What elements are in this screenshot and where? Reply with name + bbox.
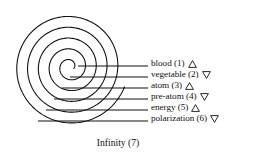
triangle-up-icon xyxy=(188,60,197,68)
triangle-up-icon xyxy=(191,104,200,112)
triangle-down-icon xyxy=(210,115,219,123)
legend-item-pre-atom: pre-atom (4) xyxy=(151,91,256,102)
legend-list: blood (1) vegetable (2) atom (3) pre-ato… xyxy=(151,58,256,124)
legend-label-pre-atom: pre-atom (4) xyxy=(151,91,197,102)
legend-item-blood: blood (1) xyxy=(151,58,256,69)
triangle-up-icon xyxy=(185,82,194,90)
legend-item-vegetable: vegetable (2) xyxy=(151,69,256,80)
spiral-figure: blood (1) vegetable (2) atom (3) pre-ato… xyxy=(0,0,256,157)
legend-item-polarization: polarization (6) xyxy=(151,113,256,124)
legend-item-atom: atom (3) xyxy=(151,80,256,91)
spiral-curve xyxy=(17,16,125,122)
legend-item-energy: energy (5) xyxy=(151,102,256,113)
figure-caption: Infinity (7) xyxy=(0,136,236,149)
spiral-path xyxy=(17,16,125,122)
triangle-down-icon xyxy=(200,93,209,101)
legend-label-atom: atom (3) xyxy=(151,80,182,91)
legend-label-blood: blood (1) xyxy=(151,58,185,69)
legend-label-vegetable: vegetable (2) xyxy=(151,69,199,80)
legend-label-energy: energy (5) xyxy=(151,102,188,113)
legend-label-polarization: polarization (6) xyxy=(151,113,207,124)
triangle-down-icon xyxy=(202,71,211,79)
